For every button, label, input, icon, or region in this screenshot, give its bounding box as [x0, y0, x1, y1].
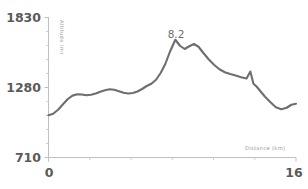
x-axis-ticks [49, 158, 297, 162]
peak-annotation-label: 8.2 [168, 28, 185, 40]
y-tick-label-mid: 1280 [6, 80, 41, 95]
y-axis-title: Altitude (m) [59, 20, 65, 55]
y-tick-label-bottom: 710 [15, 150, 41, 165]
x-tick-label-right: 16 [285, 165, 303, 180]
x-tick-label-left: 0 [45, 165, 54, 180]
y-axis-ticks [45, 18, 49, 158]
chart-svg: 1830 1280 710 0 16 Altitude (m) Distance… [0, 0, 308, 189]
x-axis-title: Distance (km) [245, 145, 285, 151]
y-tick-label-top: 1830 [6, 10, 41, 25]
elevation-line [49, 40, 297, 116]
elevation-profile-chart: 1830 1280 710 0 16 Altitude (m) Distance… [0, 0, 308, 189]
